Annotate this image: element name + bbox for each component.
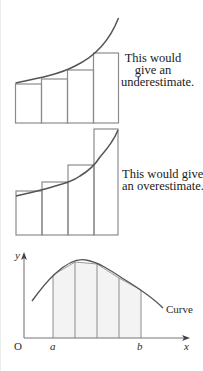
upper-limit-label: b bbox=[137, 341, 143, 352]
curve-label: Curve bbox=[166, 304, 193, 315]
lower-limit-label: a bbox=[50, 341, 56, 352]
origin-label: O bbox=[14, 341, 22, 352]
x-axis-label: x bbox=[184, 341, 189, 352]
trapezium-diagram bbox=[0, 0, 203, 371]
y-axis-label: y bbox=[15, 250, 20, 261]
